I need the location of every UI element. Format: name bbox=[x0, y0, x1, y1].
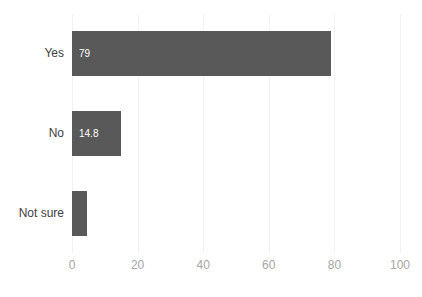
x-tick-label: 100 bbox=[390, 258, 410, 272]
bar-chart: YesNoNot sure 7914.8 020406080100 bbox=[0, 0, 422, 297]
category-label: No bbox=[0, 111, 64, 156]
x-tick-label: 40 bbox=[197, 258, 210, 272]
x-tick-label: 0 bbox=[69, 258, 76, 272]
gridline bbox=[400, 14, 401, 253]
bar-row bbox=[72, 191, 400, 236]
bar[interactable] bbox=[72, 191, 87, 236]
category-label: Not sure bbox=[0, 191, 64, 236]
bar[interactable] bbox=[72, 31, 331, 76]
bar-row: 79 bbox=[72, 31, 400, 76]
bar-value-label: 14.8 bbox=[79, 111, 98, 156]
x-tick-label: 20 bbox=[131, 258, 144, 272]
x-tick-label: 80 bbox=[328, 258, 341, 272]
bar-value-label: 79 bbox=[79, 31, 90, 76]
x-tick-label: 60 bbox=[262, 258, 275, 272]
category-label: Yes bbox=[0, 31, 64, 76]
x-axis: 020406080100 bbox=[72, 258, 400, 278]
plot-area: 7914.8 bbox=[72, 14, 400, 253]
category-axis: YesNoNot sure bbox=[0, 14, 64, 253]
bar-row: 14.8 bbox=[72, 111, 400, 156]
